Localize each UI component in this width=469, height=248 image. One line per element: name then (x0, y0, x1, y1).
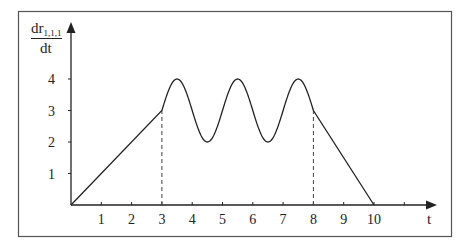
dashed-guides (162, 111, 314, 206)
y-label-denominator: dt (40, 40, 53, 56)
y-axis-arrow-icon (67, 22, 76, 33)
y-tick-label: 4 (48, 72, 55, 87)
x-axis-label: t (427, 211, 432, 227)
x-tick-label: 2 (128, 212, 135, 227)
x-axis-arrow-icon (426, 201, 437, 210)
y-label-numerator: dr1,1,1 (31, 20, 62, 38)
x-tick-label: 3 (158, 212, 165, 227)
data-line (71, 79, 374, 205)
x-tick-label: 4 (189, 212, 196, 227)
y-tick-label: 1 (48, 167, 55, 182)
chart-frame (19, 12, 452, 237)
x-tick-label: 6 (249, 212, 256, 227)
x-tick-label: 9 (340, 212, 347, 227)
x-tick-label: 5 (219, 212, 226, 227)
y-axis-label: dr1,1,1 dt (31, 20, 62, 56)
axes (67, 22, 438, 210)
x-tick-label: 1 (98, 212, 105, 227)
ticks: 123456789101234 (48, 72, 404, 227)
x-tick-label: 7 (280, 212, 287, 227)
chart: 123456789101234 dr1,1,1 dt t (0, 0, 469, 248)
y-tick-label: 3 (48, 104, 55, 119)
y-tick-label: 2 (48, 135, 55, 150)
x-tick-label: 8 (310, 212, 317, 227)
x-tick-label: 10 (367, 212, 381, 227)
